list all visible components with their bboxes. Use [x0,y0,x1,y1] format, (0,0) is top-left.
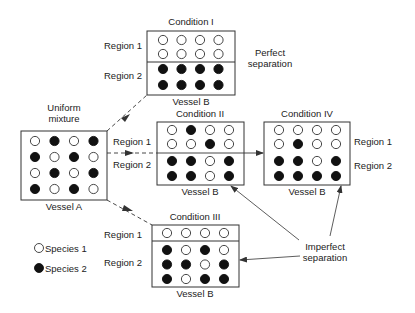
species-2-particle-icon [214,64,223,73]
legend-species-1-icon [35,244,44,253]
species-1-particle-icon [181,274,190,283]
species-1-particle-icon [274,125,283,134]
species-2-particle-icon [331,156,340,165]
imperfect-separation-note: Imperfect separation [295,241,355,263]
species-1-particle-icon [69,136,78,145]
species-1-particle-icon [293,125,302,134]
species-2-particle-icon [162,245,171,254]
condition-iv-region-2-label: Region 2 [354,160,392,171]
vessel-a-title-line-2: mixture [34,113,94,124]
species-2-particle-icon [50,168,59,177]
legend-species-2-icon [35,264,44,273]
species-1-particle-icon [224,139,233,148]
species-2-particle-icon [89,168,98,177]
species-2-particle-icon [177,64,186,73]
arrow-head [125,150,134,156]
species-1-particle-icon [181,245,190,254]
species-1-particle-icon [312,156,321,165]
species-1-particle-icon [200,228,209,237]
species-1-particle-icon [219,228,228,237]
species-2-particle-icon [158,80,167,89]
species-2-particle-icon [195,80,204,89]
species-2-particle-icon [195,64,204,73]
species-1-particle-icon [50,184,59,193]
species-2-particle-icon [30,184,39,193]
species-1-particle-icon [181,228,190,237]
vessel-a-title: Uniform mixture [34,102,94,124]
species-2-particle-icon [200,274,209,283]
species-2-particle-icon [293,171,302,180]
species-1-particle-icon [30,168,39,177]
species-2-particle-icon [89,136,98,145]
species-1-particle-icon [167,125,176,134]
species-1-particle-icon [312,139,321,148]
condition-iv-title: Condition IV [267,108,347,119]
note-line-2: separation [240,58,300,69]
condition-ii-caption: Vessel B [160,186,240,197]
species-1-particle-icon [219,245,228,254]
species-2-particle-icon [312,171,321,180]
condition-iii-caption: Vessel B [155,288,235,299]
species-1-particle-icon [205,125,214,134]
condition-ii-region-2-label: Region 2 [113,159,151,170]
species-1-particle-icon [205,156,214,165]
species-1-particle-icon [89,152,98,161]
legend-species-1-label: Species 1 [45,243,87,254]
species-1-particle-icon [195,35,204,44]
species-1-particle-icon [331,125,340,134]
condition-iii-title: Condition III [155,211,235,222]
condition-i-region-1-label: Region 1 [104,40,142,51]
arrow-head [121,114,130,122]
species-2-particle-icon [205,139,214,148]
species-1-particle-icon [205,171,214,180]
arrow-a-to-iii [107,200,152,225]
arrow-a-to-i [107,95,147,131]
species-1-particle-icon [69,168,78,177]
species-1-particle-icon [89,184,98,193]
species-2-particle-icon [162,260,171,269]
pointer-to-iii [240,256,300,260]
species-2-particle-icon [177,80,186,89]
species-2-particle-icon [200,245,209,254]
species-2-particle-icon [167,171,176,180]
species-1-particle-icon [195,49,204,58]
species-2-particle-icon [224,156,233,165]
condition-iv-region-1-label: Region 1 [354,136,392,147]
species-2-particle-icon [186,156,195,165]
species-2-particle-icon [69,152,78,161]
condition-ii-title: Condition II [160,108,240,119]
species-1-particle-icon [331,139,340,148]
species-1-particle-icon [158,49,167,58]
species-2-particle-icon [162,274,171,283]
legend-species-2-label: Species 2 [45,263,87,274]
vessel-a-title-line-1: Uniform [34,102,94,113]
species-1-particle-icon [224,125,233,134]
species-1-particle-icon [312,125,321,134]
condition-i-caption: Vessel B [151,96,231,107]
arrow-head [122,205,133,211]
species-1-particle-icon [177,35,186,44]
species-2-particle-icon [69,184,78,193]
species-1-particle-icon [214,35,223,44]
species-2-particle-icon [274,156,283,165]
species-2-particle-icon [186,171,195,180]
species-2-particle-icon [181,260,190,269]
species-2-particle-icon [331,171,340,180]
species-2-particle-icon [224,171,233,180]
condition-ii-region-1-label: Region 1 [113,136,151,147]
species-1-particle-icon [30,136,39,145]
species-2-particle-icon [167,156,176,165]
species-2-particle-icon [293,156,302,165]
species-1-particle-icon [158,35,167,44]
species-2-particle-icon [30,152,39,161]
note-line-1: Imperfect [295,241,355,252]
species-1-particle-icon [200,260,209,269]
species-2-particle-icon [293,139,302,148]
vessel-a-caption: Vessel A [34,201,94,212]
note-line-1: Perfect [240,47,300,58]
condition-iii-region-1-label: Region 1 [104,229,142,240]
species-2-particle-icon [219,260,228,269]
perfect-separation-note: Perfect separation [240,47,300,69]
condition-iii-region-2-label: Region 2 [104,257,142,268]
species-1-particle-icon [186,139,195,148]
